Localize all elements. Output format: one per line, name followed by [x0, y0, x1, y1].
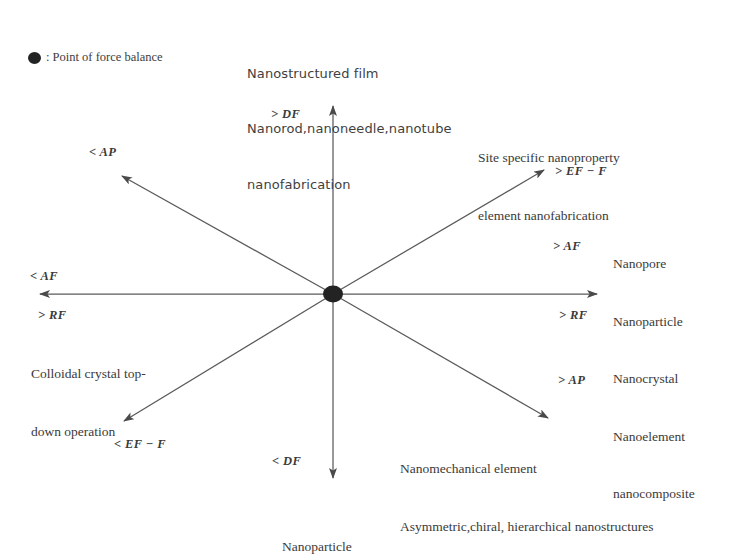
axis-label-lower-left-diagonal: < EF − F — [114, 436, 166, 454]
annotation-top-line3: nanofabrication — [247, 176, 452, 194]
annotation-bottom: Nanoparticle nanocrystal — [282, 499, 352, 557]
axis-label-right-upper: > AF — [553, 238, 581, 256]
legend-label: : Point of force balance — [46, 50, 163, 65]
legend: : Point of force balance — [28, 50, 163, 65]
annotation-bottom-line1: Nanoparticle — [282, 537, 352, 556]
annotation-right-line1: Nanopore — [613, 254, 695, 273]
axis-label-upper-left-diagonal: < AP — [89, 144, 116, 162]
annotation-lower-right: Nanomechanical element Asymmetric,chiral… — [400, 421, 653, 555]
axis-label-left-upper: < AF — [30, 268, 58, 286]
annotation-upper-right-line2: element nanofabrication — [478, 206, 620, 225]
axis-label-right-lower: > RF — [559, 307, 588, 325]
axis-label-left-lower: > RF — [38, 307, 67, 325]
annotation-right-line2: Nanoparticle — [613, 312, 695, 331]
axis-arrow-lower-left — [124, 294, 333, 421]
axis-label-down: < DF — [272, 453, 301, 471]
annotation-lower-right-line1: Nanomechanical element — [400, 459, 653, 478]
center-node-force-balance — [323, 286, 343, 303]
axis-label-lower-right-diagonal: > AP — [558, 372, 585, 390]
axis-label-upper-right-diagonal: > EF − F — [555, 163, 607, 181]
axis-arrow-lower-right — [333, 294, 548, 418]
axis-label-up: > DF — [271, 106, 300, 124]
annotation-lower-right-line2: Asymmetric,chiral, hierarchical nanostru… — [400, 517, 653, 536]
annotation-top-line1: Nanostructured film — [247, 65, 452, 83]
filled-circle-icon — [28, 52, 41, 64]
annotation-left-line1: Colloidal crystal top- — [31, 364, 146, 383]
annotation-right-line3: Nanocrystal — [613, 369, 695, 388]
